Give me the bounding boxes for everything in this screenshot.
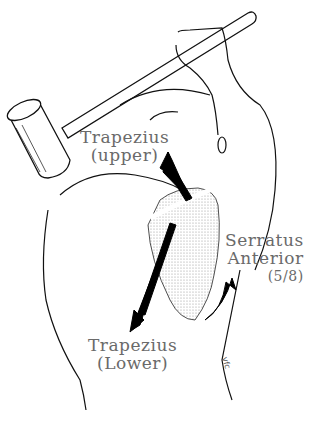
label-trapezius-lower: Trapezius (Lower) bbox=[88, 336, 177, 372]
label-trapezius-upper: Trapezius (upper) bbox=[80, 128, 169, 164]
label-line: Anterior bbox=[225, 249, 304, 267]
label-line: (5/8) bbox=[225, 267, 304, 285]
label-line: Trapezius bbox=[88, 336, 177, 354]
label-line: (Lower) bbox=[88, 354, 177, 372]
label-line: (upper) bbox=[80, 146, 169, 164]
label-line: Serratus bbox=[225, 231, 304, 249]
label-line: Trapezius bbox=[80, 128, 169, 146]
label-serratus-anterior: Serratus Anterior (5/8) bbox=[225, 231, 304, 285]
scapula bbox=[148, 188, 219, 320]
illustration: Trapezius (upper) Serratus Anterior (5/8… bbox=[0, 0, 325, 424]
